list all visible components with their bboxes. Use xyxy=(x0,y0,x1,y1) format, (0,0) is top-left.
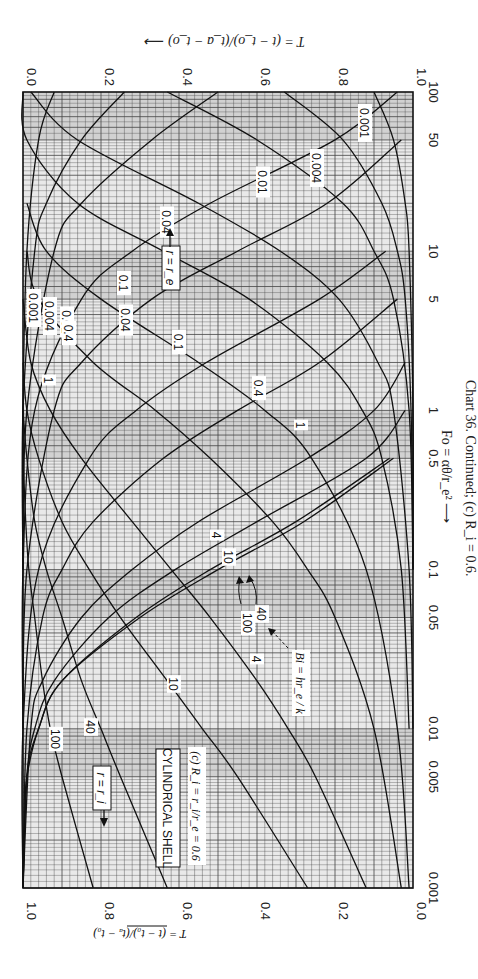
curve-value-label: 4 xyxy=(209,530,224,541)
ti-tick-label: 0.0 xyxy=(414,902,429,920)
curve-value-label: 1 xyxy=(41,375,56,386)
te-tick-label: 1.0 xyxy=(414,68,429,86)
ti-tick-label: 0.8 xyxy=(102,902,117,920)
curve-value-label: 0.004 xyxy=(309,149,324,187)
svg-text:40: 40 xyxy=(83,720,97,734)
svg-text:0.6: 0.6 xyxy=(258,68,273,86)
curve-value-label: 0.001 xyxy=(357,104,372,142)
svg-text:T = (t − t₀)/(tₐ − t₀): T = (t − t₀)/(tₐ − t₀) xyxy=(93,927,186,941)
svg-text:0.001: 0.001 xyxy=(357,108,371,138)
svg-text:0.1: 0.1 xyxy=(116,275,130,292)
curve-value-label: 0.04 xyxy=(118,304,133,335)
heat-conduction-chart: 0.0010.0050.010.050.10.51510501000.00.00… xyxy=(0,0,478,979)
curve-value-label: 0.01 xyxy=(255,166,270,197)
curve-value-label: 1 xyxy=(293,420,308,431)
svg-text:0.001: 0.001 xyxy=(26,293,40,323)
svg-text:4: 4 xyxy=(209,532,223,539)
svg-text:0.2: 0.2 xyxy=(336,902,351,920)
cylindrical-shell-title: CYLINDRICAL SHELL xyxy=(156,748,180,869)
fo-tick-label: 0.001 xyxy=(426,872,441,905)
fo-tick-label: 0.005 xyxy=(426,760,441,793)
svg-text:CYLINDRICAL SHELL: CYLINDRICAL SHELL xyxy=(160,748,174,869)
svg-text:0.6: 0.6 xyxy=(180,902,195,920)
svg-text:0.2: 0.2 xyxy=(102,68,117,86)
fo-tick-label: 0.05 xyxy=(426,605,441,630)
svg-text:0.001: 0.001 xyxy=(426,872,441,905)
svg-text:1: 1 xyxy=(41,377,55,384)
fo-tick-label: 1 xyxy=(426,407,441,414)
svg-text:5: 5 xyxy=(426,296,441,303)
svg-text:0.0: 0.0 xyxy=(24,68,39,86)
top-axis-title: T = (t − t_o)/(t_a − t_o) ⟶ xyxy=(145,33,305,50)
fo-tick-label: 5 xyxy=(426,296,441,303)
fo-tick-label: 0.1 xyxy=(426,561,441,579)
curve-value-label: 100 xyxy=(240,611,255,635)
svg-text:0.8: 0.8 xyxy=(102,902,117,920)
ti-tick-label: 1.0 xyxy=(24,902,39,920)
ti-tick-label: 0.2 xyxy=(336,902,351,920)
svg-text:1.0: 1.0 xyxy=(24,902,39,920)
curve-value-label: 4 xyxy=(249,654,264,665)
svg-text:50: 50 xyxy=(426,133,441,147)
fo-tick-label: 10 xyxy=(426,244,441,258)
r-equals-re-label: r = r_e xyxy=(162,246,180,290)
biot-number-label: Bi = hr_e / k xyxy=(292,650,310,716)
curve-value-label: 0.4 xyxy=(61,321,76,345)
ti-tick-label: 0.4 xyxy=(258,902,273,920)
curve-value-label: 40 xyxy=(254,605,269,623)
svg-text:0.004: 0.004 xyxy=(42,301,56,331)
te-tick-label: 0.8 xyxy=(336,68,351,86)
svg-text:0.4: 0.4 xyxy=(251,380,265,397)
te-tick-label: 0.2 xyxy=(102,68,117,86)
svg-text:1: 1 xyxy=(293,422,307,429)
svg-text:0.004: 0.004 xyxy=(309,153,323,183)
svg-text:(c) R_i = r_i/r_e = 0.6: (c) R_i = r_i/r_e = 0.6 xyxy=(189,751,203,861)
svg-text:0.4: 0.4 xyxy=(61,325,75,342)
fo-tick-label: 0.01 xyxy=(426,716,441,741)
r-equals-ri-label: r = r_i xyxy=(93,766,111,810)
svg-text:r = r_i: r = r_i xyxy=(94,772,108,803)
svg-text:Bi = hr_e / k: Bi = hr_e / k xyxy=(293,652,307,714)
fo-tick-label: 50 xyxy=(426,133,441,147)
curve-value-label: 0.001 xyxy=(26,289,41,327)
te-tick-label: 0.6 xyxy=(258,68,273,86)
svg-text:0.005: 0.005 xyxy=(426,760,441,793)
svg-text:0.01: 0.01 xyxy=(426,716,441,741)
svg-text:0.4: 0.4 xyxy=(180,68,195,86)
svg-text:40: 40 xyxy=(254,607,268,621)
svg-text:0.0: 0.0 xyxy=(414,902,429,920)
svg-text:0.8: 0.8 xyxy=(336,68,351,86)
svg-text:0.04: 0.04 xyxy=(118,308,132,332)
ti-axis-title: T = (t − t₀)/(tₐ − t₀) xyxy=(93,927,186,941)
svg-text:100: 100 xyxy=(240,613,254,633)
svg-text:10: 10 xyxy=(426,244,441,258)
svg-text:10: 10 xyxy=(166,677,180,691)
svg-text:100: 100 xyxy=(48,729,62,749)
curve-value-label: 0.1 xyxy=(116,271,131,295)
figure-caption: Chart 36. Continued; (c) R_i = 0.6. xyxy=(462,380,478,577)
curve-value-label: 0.4 xyxy=(251,376,266,400)
svg-text:10: 10 xyxy=(221,550,235,564)
curve-value-label: 40 xyxy=(83,718,98,736)
svg-text:0.05: 0.05 xyxy=(426,605,441,630)
curve-value-label: 0.004 xyxy=(42,297,57,335)
svg-text:1.0: 1.0 xyxy=(414,68,429,86)
fo-axis-title: Fo = αθ/r_e² ⟶ xyxy=(438,430,455,523)
ti-tick-label: 0.6 xyxy=(180,902,195,920)
svg-text:1: 1 xyxy=(426,407,441,414)
svg-text:0.4: 0.4 xyxy=(258,902,273,920)
svg-text:r = r_e: r = r_e xyxy=(163,250,177,285)
te-tick-label: 0.4 xyxy=(180,68,195,86)
curve-value-label: 10 xyxy=(221,548,236,566)
svg-text:0.1: 0.1 xyxy=(426,561,441,579)
ratio-subtitle: (c) R_i = r_i/r_e = 0.6 xyxy=(188,747,206,865)
te-tick-label: 0.0 xyxy=(24,68,39,86)
curve-value-label: 10 xyxy=(166,675,181,693)
svg-text:0.01: 0.01 xyxy=(255,170,269,194)
svg-text:0.1: 0.1 xyxy=(171,334,185,351)
curve-value-label: 100 xyxy=(48,727,63,751)
svg-text:4: 4 xyxy=(249,656,263,663)
curve-value-label: 0.1 xyxy=(171,330,186,354)
